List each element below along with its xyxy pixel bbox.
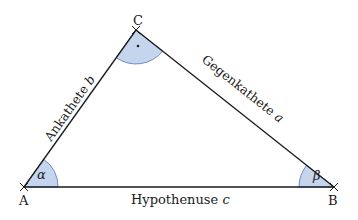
- right-angle-dot: [137, 45, 140, 48]
- angle-alpha-label: α: [37, 167, 46, 182]
- side-c-label: Hypothenuse c: [131, 192, 230, 207]
- vertex-c-label: C: [133, 13, 143, 28]
- right-triangle-diagram: A B C α β Ankathete b Gegenkathete a Hyp…: [0, 0, 358, 220]
- vertex-a-label: A: [18, 193, 29, 208]
- vertex-b-label: B: [328, 193, 338, 208]
- side-a-line: [136, 30, 334, 187]
- side-b-line: [24, 30, 136, 187]
- angle-beta-label: β: [312, 168, 321, 183]
- side-b-label: Ankathete b: [41, 72, 99, 144]
